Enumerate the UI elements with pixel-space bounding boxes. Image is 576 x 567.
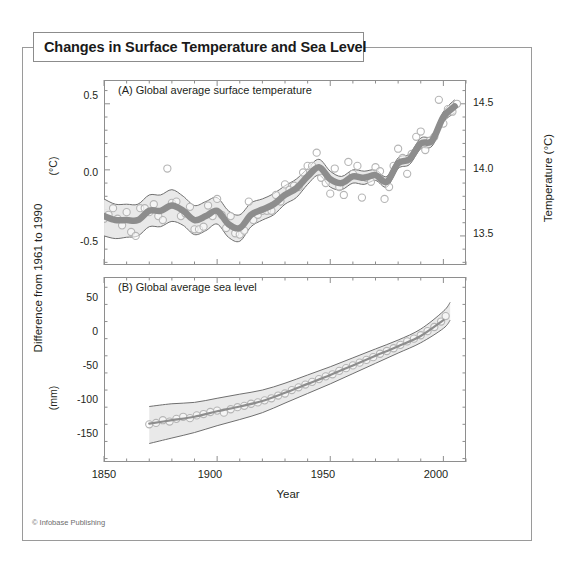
page-title: Changes in Surface Temperature and Sea L… bbox=[34, 39, 367, 55]
figure-title-box: Changes in Surface Temperature and Sea L… bbox=[33, 32, 364, 62]
panel-a-plot bbox=[104, 80, 466, 265]
climate-figure: Changes in Surface Temperature and Sea L… bbox=[0, 0, 576, 567]
panel-b-plot bbox=[104, 277, 466, 462]
publisher-credit: © Infobase Publishing bbox=[32, 518, 105, 527]
